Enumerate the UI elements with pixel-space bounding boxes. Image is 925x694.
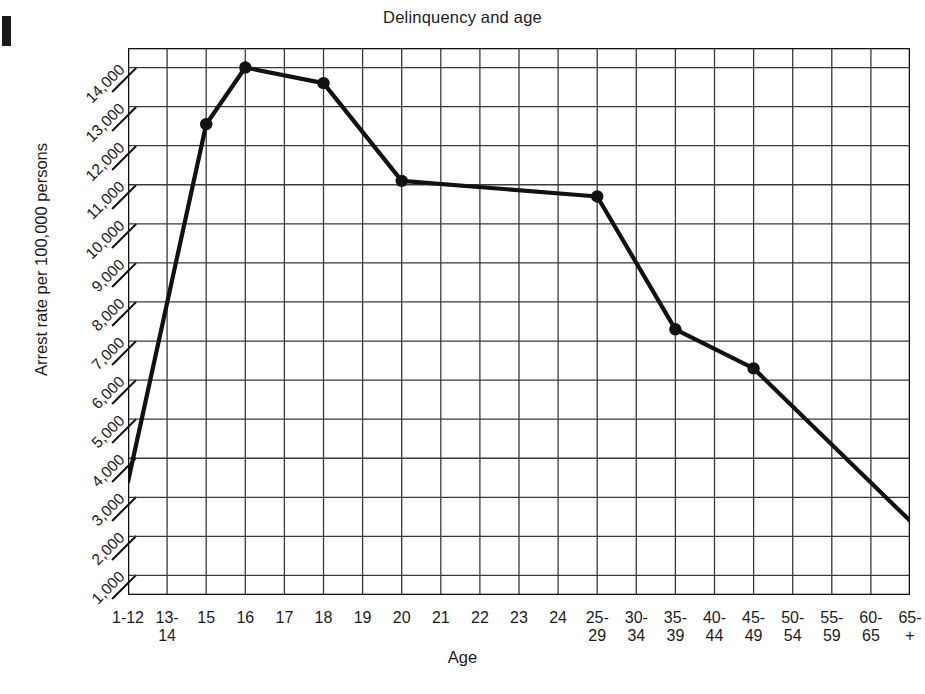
data-point-marker: [396, 175, 408, 187]
chart-title: Delinquency and age: [0, 8, 925, 27]
plot-area: [128, 48, 910, 595]
data-point-marker: [747, 362, 759, 374]
x-axis-title: Age: [0, 648, 925, 667]
chart-page: Delinquency and age Arrest rate per 100,…: [0, 0, 925, 694]
y-axis-tick-labels: 1,0002,0003,0004,0005,0006,0007,0008,000…: [0, 0, 128, 694]
data-point-marker: [591, 190, 603, 202]
data-point-marker: [239, 61, 251, 73]
x-tick-label: 65- +: [884, 609, 925, 645]
data-point-marker: [317, 77, 329, 89]
data-point-marker: [200, 118, 212, 130]
vertical-gridlines: [128, 48, 910, 595]
data-point-marker: [669, 323, 681, 335]
chart-svg: [128, 48, 910, 595]
